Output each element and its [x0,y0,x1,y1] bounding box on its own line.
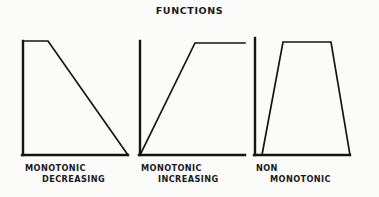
panel1-caption-line2: DECREASING [25,174,105,185]
panel1-caption-line1: MONOTONIC [25,163,86,173]
panel3-caption-line2: MONOTONIC [256,174,331,185]
panel1-caption: MONOTONIC DECREASING [25,163,105,185]
panel-non-monotonic [254,38,350,155]
panel2-caption-line2: INCREASING [141,174,219,185]
panel2-curve [140,43,245,155]
panel-monotonic-decreasing [22,41,128,155]
panel3-caption: NON MONOTONIC [256,163,331,185]
functions-figure: FUNCTIONS MONOTONIC DECREASING MONOTONIC… [0,0,379,197]
panel-monotonic-increasing [139,41,245,155]
panel2-caption-line1: MONOTONIC [141,163,202,173]
panel3-curve [262,42,350,155]
panel1-curve [23,41,128,155]
panel2-caption: MONOTONIC INCREASING [141,163,219,185]
panel3-caption-line1: NON [256,163,278,173]
